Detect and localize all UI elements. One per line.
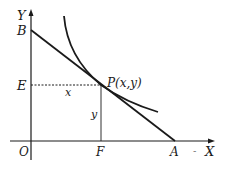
point-a-label: A xyxy=(169,145,179,159)
point-p-label: P(x,y) xyxy=(106,76,142,90)
point-e-label: E xyxy=(16,78,27,93)
origin-label: O xyxy=(19,145,29,159)
y-axis-arrow-icon xyxy=(29,9,34,16)
point-b-label: B xyxy=(16,23,27,38)
x-arrow-dash: - xyxy=(193,145,197,156)
x-axis-label: X xyxy=(204,144,215,159)
curve xyxy=(64,16,158,112)
point-f-label: F xyxy=(95,145,105,159)
segment-x-label: x xyxy=(65,86,72,99)
tangent-diagram: Y B E x P(x,y) y O F A - X xyxy=(0,0,225,169)
segment-y-label: y xyxy=(90,108,98,121)
y-axis-label: Y xyxy=(17,8,27,23)
x-axis-arrow-icon xyxy=(208,139,215,144)
